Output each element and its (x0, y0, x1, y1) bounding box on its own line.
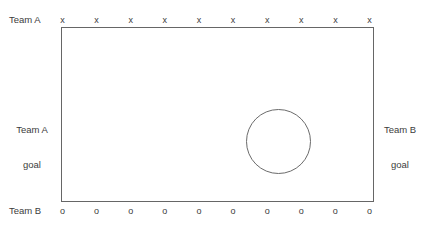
team-a-goal-line2: goal (6, 159, 58, 171)
team-b-marker-row: o o o o o o o o o o (58, 205, 374, 217)
center-circle (246, 109, 311, 174)
player-marker: o (126, 205, 135, 217)
team-b-goal-line1: Team B (376, 124, 424, 136)
team-a-row-label: Team A (9, 14, 41, 25)
player-marker: x (229, 14, 238, 26)
player-marker: x (58, 14, 67, 26)
playing-field (61, 27, 374, 202)
player-marker: x (297, 14, 306, 26)
player-marker: x (263, 14, 272, 26)
player-marker: x (331, 14, 340, 26)
team-b-goal-label: Team B goal (376, 101, 424, 193)
player-marker: o (160, 205, 169, 217)
player-marker: x (126, 14, 135, 26)
team-a-goal-label: Team A goal (6, 101, 58, 193)
player-marker: o (58, 205, 67, 217)
team-a-marker-row: x x x x x x x x x x (58, 14, 374, 26)
player-marker: o (365, 205, 374, 217)
soccer-field-diagram: Team A x x x x x x x x x x Team A goal T… (0, 0, 428, 228)
player-marker: x (92, 14, 101, 26)
player-marker: o (92, 205, 101, 217)
team-b-row-label: Team B (9, 205, 41, 216)
player-marker: o (229, 205, 238, 217)
player-marker: o (297, 205, 306, 217)
team-a-goal-line1: Team A (6, 124, 58, 136)
player-marker: x (194, 14, 203, 26)
player-marker: o (194, 205, 203, 217)
player-marker: x (160, 14, 169, 26)
player-marker: o (331, 205, 340, 217)
player-marker: x (365, 14, 374, 26)
team-b-goal-line2: goal (376, 159, 424, 171)
player-marker: o (263, 205, 272, 217)
